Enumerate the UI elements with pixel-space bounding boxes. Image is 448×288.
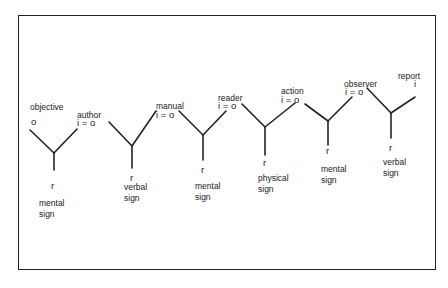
symbol-o-1: o <box>31 117 36 127</box>
symbol-i-equals-o-3: i = o <box>156 110 174 120</box>
triad-5-shape <box>305 97 352 145</box>
sign-type-1-line1: mental <box>39 198 65 208</box>
triad-2-shape <box>109 111 156 168</box>
sign-type-5-line2: sign <box>321 175 337 185</box>
sign-type-6-line1: verbal <box>383 157 406 167</box>
sign-type-6-line2: sign <box>383 168 399 178</box>
sign-type-3-line2: sign <box>195 192 211 202</box>
symbol-i-equals-o-5: i = o <box>281 95 299 105</box>
symbol-i-equals-o-2: i = o <box>77 118 95 128</box>
sign-type-2-line1: verbal <box>124 182 147 192</box>
sign-type-4-line2: sign <box>258 184 274 194</box>
semiotic-chain-lines <box>0 0 448 288</box>
symbol-i-7: i <box>414 79 416 89</box>
sign-type-4-line1: physical <box>258 173 289 183</box>
sign-type-3-line1: mental <box>195 181 221 191</box>
triad-1-shape <box>30 129 77 170</box>
symbol-r-3: r <box>201 165 204 175</box>
label-report: report <box>398 71 420 81</box>
symbol-r-6: r <box>389 143 392 153</box>
sign-type-1-line2: sign <box>39 209 55 219</box>
triad-3-shape <box>179 111 226 160</box>
symbol-i-equals-o-4: i = o <box>218 101 236 111</box>
symbol-i-equals-o-6: i = o <box>345 87 363 97</box>
triad-4-shape <box>242 103 295 155</box>
sign-type-5-line1: mental <box>321 164 347 174</box>
label-objective: objective <box>30 102 64 112</box>
triad-6-shape <box>367 88 415 138</box>
sign-type-2-line2: sign <box>124 193 140 203</box>
symbol-r-5: r <box>326 146 329 156</box>
symbol-r-4: r <box>263 158 266 168</box>
symbol-r-1: r <box>51 181 54 191</box>
